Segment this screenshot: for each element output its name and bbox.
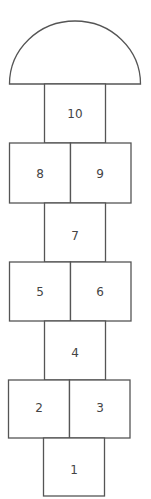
square-5: 5 bbox=[10, 262, 71, 321]
square-label: 8 bbox=[36, 167, 44, 181]
square-6: 6 bbox=[71, 262, 132, 321]
square-label: 10 bbox=[67, 107, 82, 121]
square-label: 2 bbox=[35, 401, 43, 415]
square-3: 3 bbox=[70, 380, 131, 438]
square-label: 7 bbox=[71, 229, 79, 243]
semicircle-head bbox=[10, 21, 141, 84]
square-2: 2 bbox=[9, 380, 70, 438]
square-label: 6 bbox=[96, 285, 104, 299]
square-7: 7 bbox=[45, 203, 106, 262]
square-label: 1 bbox=[70, 463, 78, 477]
square-label: 5 bbox=[36, 285, 44, 299]
square-8: 8 bbox=[10, 143, 71, 203]
square-label: 3 bbox=[96, 401, 104, 415]
hopscotch-diagram: 10 8 9 7 5 6 4 2 3 1 bbox=[0, 0, 151, 499]
square-1: 1 bbox=[44, 438, 105, 496]
square-9: 9 bbox=[71, 143, 132, 203]
square-10: 10 bbox=[45, 84, 106, 143]
square-4: 4 bbox=[45, 321, 106, 380]
square-label: 4 bbox=[71, 346, 79, 360]
square-label: 9 bbox=[96, 167, 104, 181]
